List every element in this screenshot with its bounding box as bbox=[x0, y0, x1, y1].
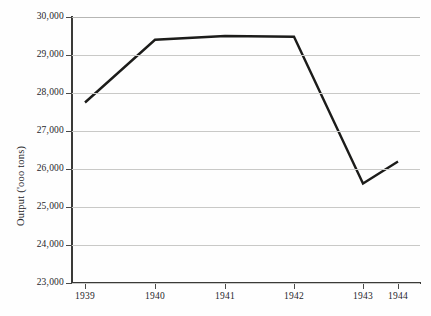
gridline bbox=[72, 207, 420, 208]
y-axis-tick-label: 28,000 bbox=[4, 87, 64, 97]
y-axis-tick-label: 25,000 bbox=[4, 201, 64, 211]
y-axis-tick bbox=[66, 93, 72, 94]
x-axis-tick bbox=[85, 284, 86, 289]
y-axis-tick bbox=[66, 245, 72, 246]
gridline bbox=[72, 55, 420, 56]
chart-page: Output ('ooo tons) 23,00024,00025,00026,… bbox=[0, 0, 431, 316]
gridline bbox=[72, 131, 420, 132]
x-axis-tick bbox=[225, 284, 226, 289]
gridline bbox=[72, 93, 420, 94]
y-axis-tick-label: 30,000 bbox=[4, 11, 64, 21]
data-series-line bbox=[72, 17, 420, 283]
y-axis-tick bbox=[66, 169, 72, 170]
x-axis-tick-label: 1940 bbox=[125, 291, 185, 301]
y-axis-tick bbox=[66, 207, 72, 208]
x-axis-tick bbox=[294, 284, 295, 289]
x-axis-tick-label: 1941 bbox=[195, 291, 255, 301]
x-axis-tick-label: 1944 bbox=[368, 291, 428, 301]
x-axis-tick-label: 1939 bbox=[55, 291, 115, 301]
y-axis-tick-label: 23,000 bbox=[4, 277, 64, 287]
gridline bbox=[72, 245, 420, 246]
y-axis-tick bbox=[66, 17, 72, 18]
y-axis-tick-labels: 23,00024,00025,00026,00027,00028,00029,0… bbox=[0, 17, 64, 283]
y-axis-tick-label: 29,000 bbox=[4, 49, 64, 59]
x-axis-tick bbox=[398, 284, 399, 289]
x-axis-tick bbox=[155, 284, 156, 289]
y-axis-tick-label: 24,000 bbox=[4, 239, 64, 249]
y-axis-tick-label: 26,000 bbox=[4, 163, 64, 173]
y-axis-tick bbox=[66, 283, 72, 284]
x-axis-tick-label: 1942 bbox=[264, 291, 324, 301]
x-axis-tick bbox=[363, 284, 364, 289]
y-axis-tick bbox=[66, 131, 72, 132]
gridline bbox=[72, 169, 420, 170]
y-axis-tick-label: 27,000 bbox=[4, 125, 64, 135]
y-axis-tick bbox=[66, 55, 72, 56]
gridline bbox=[72, 283, 420, 284]
gridline bbox=[72, 17, 420, 18]
plot-area bbox=[72, 17, 420, 283]
